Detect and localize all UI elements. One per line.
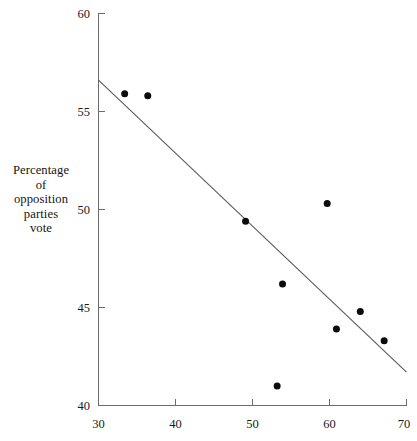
y-tick-label-55: 55 [78,105,91,119]
x-tick-label-60: 60 [323,417,336,431]
x-tick-label-70: 70 [398,417,411,431]
x-tick-label-50: 50 [246,417,259,431]
y-tick-label-40: 40 [78,399,91,413]
data-point [242,218,249,225]
data-point [274,382,281,389]
data-point [357,308,364,315]
x-tick-label-30: 30 [92,417,105,431]
data-point [381,337,388,344]
data-point [279,280,286,287]
x-tick-label-40: 40 [169,417,182,431]
data-point [144,92,151,99]
scatter-plot-figure: 60 55 50 45 40 30 40 50 60 70 Percentage… [0,0,417,441]
data-point [324,200,331,207]
y-axis-title: Percentage of opposition parties vote [2,163,80,236]
data-points-group [121,90,387,389]
regression-trend-line [99,80,407,372]
data-point [333,326,340,333]
y-tick-label-45: 45 [78,301,91,315]
y-tick-label-60: 60 [78,7,91,21]
data-point [121,90,128,97]
